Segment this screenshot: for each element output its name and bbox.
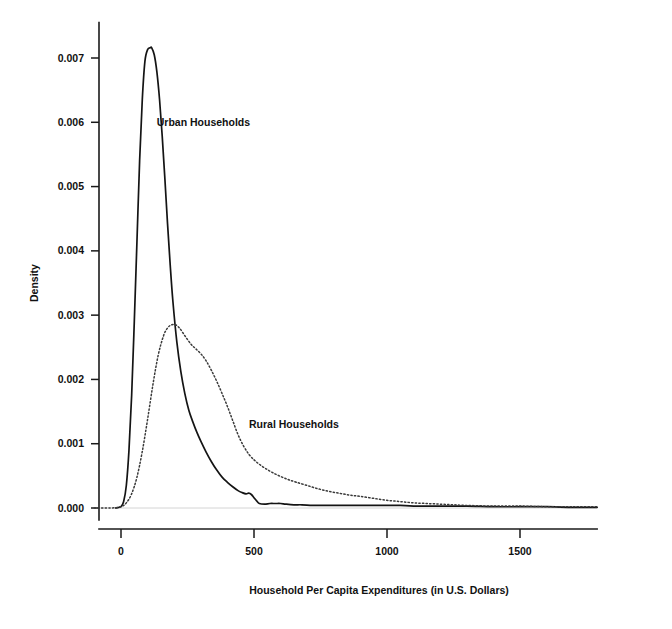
- y-tick-label: 0.000: [58, 502, 84, 514]
- y-axis-title: Density: [28, 264, 40, 302]
- y-tick-label: 0.001: [58, 437, 84, 449]
- urban-households-label: Urban Households: [157, 116, 251, 128]
- y-tick-label: 0.007: [58, 52, 84, 64]
- chart-canvas: 0.0000.0010.0020.0030.0040.0050.0060.007…: [0, 0, 672, 629]
- y-tick-label: 0.006: [58, 116, 84, 128]
- y-axis-tick-labels: 0.0000.0010.0020.0030.0040.0050.0060.007: [58, 52, 84, 514]
- series-annotations: Urban HouseholdsRural Households: [157, 116, 339, 430]
- x-tick-label: 500: [245, 545, 263, 557]
- y-tick-label: 0.004: [58, 244, 84, 256]
- y-tick-label: 0.005: [58, 180, 84, 192]
- x-axis-ticks: [121, 529, 520, 538]
- x-axis-tick-labels: 050010001500: [118, 545, 532, 557]
- x-axis-title: Household Per Capita Expenditures (in U.…: [249, 584, 509, 596]
- y-tick-label: 0.003: [58, 309, 84, 321]
- density-plot-figure: 0.0000.0010.0020.0030.0040.0050.0060.007…: [0, 0, 672, 629]
- x-tick-label: 0: [118, 545, 124, 557]
- rural-households-curve: [94, 324, 597, 508]
- y-axis-ticks: [91, 58, 99, 508]
- x-tick-label: 1000: [375, 545, 399, 557]
- x-tick-label: 1500: [508, 545, 532, 557]
- rural-households-label: Rural Households: [249, 418, 339, 430]
- y-tick-label: 0.002: [58, 373, 84, 385]
